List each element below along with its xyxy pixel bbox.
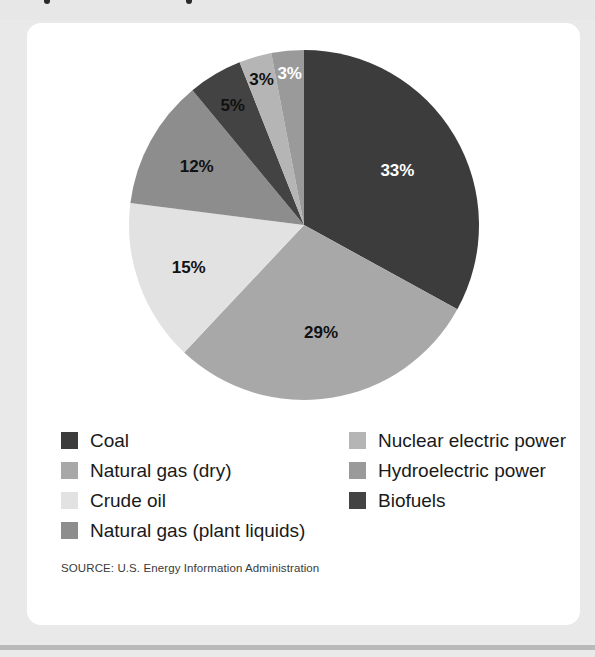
legend-item-nuclear-electric-power[interactable]: Nuclear electric power	[349, 425, 579, 455]
legend-column-right: Nuclear electric power Hydroelectric pow…	[349, 425, 579, 515]
source-note: SOURCE: U.S. Energy Information Administ…	[61, 562, 319, 574]
pie-slice-value-label: 29%	[303, 323, 337, 342]
pie-slice-value-label: 33%	[380, 161, 414, 180]
page-bottom-rule	[0, 645, 595, 650]
pie-chart: 33%29%15%12%5%3%3%	[27, 33, 580, 418]
legend-item-coal[interactable]: Coal	[61, 425, 341, 455]
legend-label: Nuclear electric power	[378, 431, 566, 450]
pie-slice-value-label: 3%	[277, 64, 302, 83]
legend-swatch-icon	[61, 522, 78, 539]
pie-slice-group	[128, 50, 478, 400]
legend-swatch-icon	[349, 432, 366, 449]
legend-swatch-icon	[61, 462, 78, 479]
clipped-headline-fragments	[0, 0, 595, 20]
legend-label: Natural gas (plant liquids)	[90, 521, 305, 540]
legend-label: Coal	[90, 431, 129, 450]
legend-item-biofuels[interactable]: Biofuels	[349, 485, 579, 515]
legend-label: Biofuels	[378, 491, 446, 510]
chart-card: 33%29%15%12%5%3%3% Coal Natural gas (dry…	[27, 23, 580, 625]
pie-chart-svg: 33%29%15%12%5%3%3%	[104, 33, 504, 418]
legend-item-hydroelectric-power[interactable]: Hydroelectric power	[349, 455, 579, 485]
legend-item-natural-gas-plant-liquids[interactable]: Natural gas (plant liquids)	[61, 515, 341, 545]
legend-item-natural-gas-dry[interactable]: Natural gas (dry)	[61, 455, 341, 485]
legend-label: Natural gas (dry)	[90, 461, 232, 480]
pie-slice-value-label: 15%	[171, 258, 205, 277]
pie-slice-value-label: 12%	[179, 157, 213, 176]
legend-column-left: Coal Natural gas (dry) Crude oil Natural…	[61, 425, 341, 545]
legend-swatch-icon	[61, 492, 78, 509]
pie-slice-value-label: 5%	[220, 96, 245, 115]
legend-label: Hydroelectric power	[378, 461, 546, 480]
legend-swatch-icon	[349, 492, 366, 509]
headline-descender-fragment	[186, 0, 192, 4]
headline-descender-fragment	[44, 0, 50, 4]
legend-swatch-icon	[349, 462, 366, 479]
legend-label: Crude oil	[90, 491, 166, 510]
pie-slice-value-label: 3%	[249, 70, 274, 89]
legend-item-crude-oil[interactable]: Crude oil	[61, 485, 341, 515]
legend-swatch-icon	[61, 432, 78, 449]
